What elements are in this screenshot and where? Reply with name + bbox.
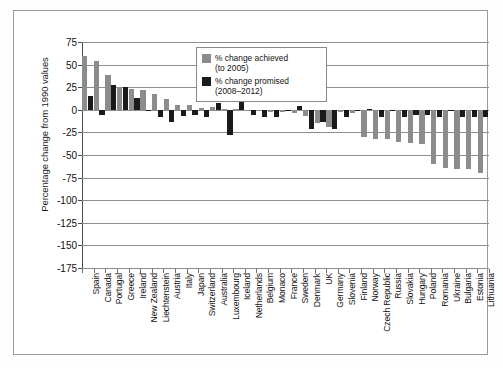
bar-promised[interactable] [460, 110, 465, 117]
bar-promised[interactable] [355, 110, 360, 111]
bar-achieved[interactable] [466, 110, 471, 170]
bar-group[interactable] [466, 42, 478, 268]
x-axis-tick-label: France [289, 273, 299, 299]
bar-achieved[interactable] [257, 110, 262, 111]
bar-achieved[interactable] [443, 110, 448, 168]
bar-promised[interactable] [344, 110, 349, 117]
bar-group[interactable] [140, 42, 152, 268]
bar-group[interactable] [384, 42, 396, 268]
bar-achieved[interactable] [117, 88, 122, 110]
bar-group[interactable] [361, 42, 373, 268]
bar-achieved[interactable] [361, 110, 366, 137]
bar-promised[interactable] [146, 110, 151, 111]
bar-promised[interactable] [332, 110, 337, 129]
bar-achieved[interactable] [292, 110, 297, 113]
bar-group[interactable] [373, 42, 385, 268]
bar-group[interactable] [326, 42, 338, 268]
bar-achieved[interactable] [140, 90, 145, 110]
bar-promised[interactable] [309, 110, 314, 129]
bar-promised[interactable] [402, 110, 407, 117]
bar-promised[interactable] [204, 110, 209, 117]
bar-promised[interactable] [158, 110, 163, 117]
bar-achieved[interactable] [350, 110, 355, 113]
bar-achieved[interactable] [326, 110, 331, 127]
bar-group[interactable] [454, 42, 466, 268]
bar-promised[interactable] [123, 87, 128, 110]
bar-promised[interactable] [239, 101, 244, 110]
bar-promised[interactable] [437, 110, 442, 117]
bar-promised[interactable] [262, 110, 267, 117]
bar-promised[interactable] [425, 110, 430, 115]
bar-group[interactable] [408, 42, 420, 268]
bar-promised[interactable] [390, 110, 395, 111]
bar-promised[interactable] [297, 106, 302, 110]
bar-promised[interactable] [251, 110, 256, 115]
bar-promised[interactable] [181, 110, 186, 116]
bar-achieved[interactable] [454, 110, 459, 169]
x-axis-tick-label: Iceland [242, 273, 252, 300]
bar-achieved[interactable] [419, 110, 424, 144]
bar-group[interactable] [431, 42, 443, 268]
bar-achieved[interactable] [129, 89, 134, 110]
bar-achieved[interactable] [303, 110, 308, 116]
bar-achieved[interactable] [94, 61, 99, 110]
bar-group[interactable] [94, 42, 106, 268]
bar-achieved[interactable] [338, 110, 343, 112]
bar-achieved[interactable] [315, 110, 320, 124]
bar-group[interactable] [129, 42, 141, 268]
bar-achieved[interactable] [478, 110, 483, 173]
bar-promised[interactable] [367, 109, 372, 110]
bar-achieved[interactable] [268, 110, 273, 112]
x-axis-tick-label: Denmark [312, 273, 322, 307]
bar-group[interactable] [396, 42, 408, 268]
bar-achieved[interactable] [199, 108, 204, 110]
bar-promised[interactable] [448, 110, 453, 111]
bar-group[interactable] [105, 42, 117, 268]
bar-group[interactable] [442, 42, 454, 268]
bar-promised[interactable] [320, 110, 325, 122]
bar-achieved[interactable] [210, 107, 215, 110]
bar-promised[interactable] [134, 98, 139, 110]
bar-promised[interactable] [379, 110, 384, 117]
bar-promised[interactable] [483, 110, 488, 117]
bar-group[interactable] [82, 42, 94, 268]
bar-group[interactable] [419, 42, 431, 268]
bar-promised[interactable] [111, 85, 116, 109]
bar-promised[interactable] [227, 110, 232, 135]
bar-achieved[interactable] [431, 110, 436, 164]
x-axis-tick-label: Spain [91, 273, 101, 294]
bar-promised[interactable] [99, 110, 104, 115]
bar-achieved[interactable] [233, 109, 238, 110]
bar-promised[interactable] [285, 110, 290, 111]
bar-group[interactable] [338, 42, 350, 268]
bar-achieved[interactable] [245, 110, 250, 111]
bar-promised[interactable] [192, 110, 197, 115]
bar-achieved[interactable] [105, 75, 110, 110]
bar-promised[interactable] [169, 110, 174, 122]
bar-promised[interactable] [274, 110, 279, 117]
bar-achieved[interactable] [175, 105, 180, 110]
bar-group[interactable] [117, 42, 129, 268]
bar-achieved[interactable] [164, 99, 169, 110]
bar-group[interactable] [163, 42, 175, 268]
bar-achieved[interactable] [373, 110, 378, 139]
bar-group[interactable] [152, 42, 164, 268]
legend-label-achieved-sub: (to 2005) [215, 63, 288, 73]
x-axis-tick-label: Netherlands [254, 273, 264, 318]
bar-achieved[interactable] [222, 109, 227, 110]
x-axis-tick-label: Bulgaria [463, 273, 473, 304]
bar-promised[interactable] [216, 103, 221, 110]
bar-group[interactable] [477, 42, 489, 268]
bar-achieved[interactable] [82, 56, 87, 109]
bar-promised[interactable] [472, 110, 477, 117]
bar-promised[interactable] [413, 110, 418, 115]
bar-achieved[interactable] [280, 110, 285, 112]
bar-group[interactable] [175, 42, 187, 268]
bar-achieved[interactable] [408, 110, 413, 143]
bar-achieved[interactable] [187, 105, 192, 110]
bar-achieved[interactable] [396, 110, 401, 143]
bar-achieved[interactable] [385, 110, 390, 139]
bar-group[interactable] [349, 42, 361, 268]
bar-achieved[interactable] [152, 94, 157, 109]
bar-promised[interactable] [88, 96, 93, 110]
